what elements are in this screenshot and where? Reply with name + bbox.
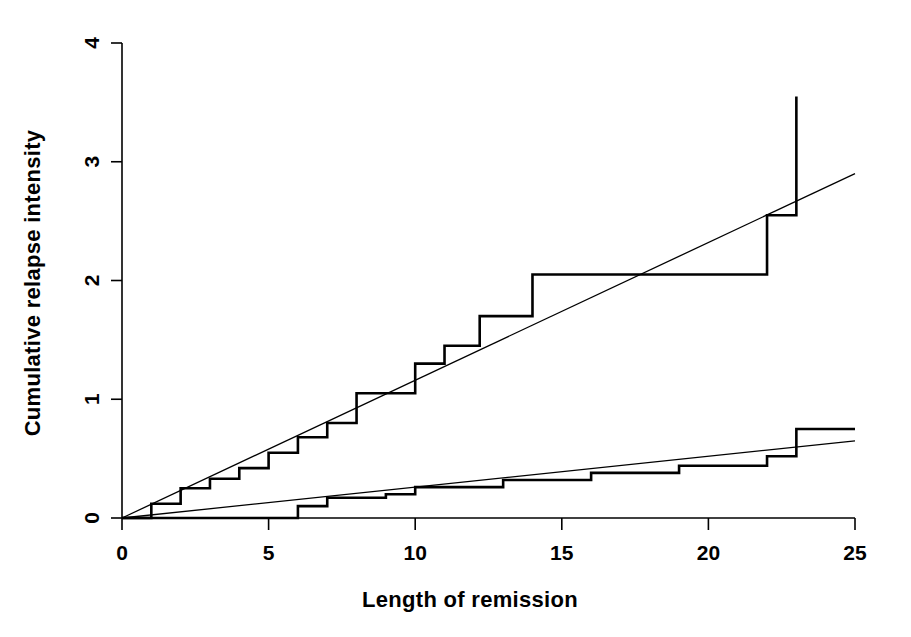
y-tick-label: 1 — [80, 393, 103, 405]
cumulative-relapse-intensity-plot: 01234 0510152025 Length of remission Cum… — [0, 0, 911, 637]
x-tick-label: 5 — [263, 541, 275, 564]
y-tick-label: 3 — [80, 156, 103, 168]
chart-figure: 01234 0510152025 Length of remission Cum… — [0, 0, 911, 637]
upper-cumulative-step — [122, 96, 796, 518]
x-axis-ticks: 0510152025 — [116, 518, 867, 564]
x-tick-label: 10 — [404, 541, 427, 564]
x-tick-label: 15 — [550, 541, 574, 564]
y-tick-label: 2 — [80, 275, 103, 287]
y-tick-label: 0 — [80, 512, 103, 524]
data-series-layer — [122, 96, 855, 518]
x-axis-title: Length of remission — [362, 587, 578, 612]
y-tick-label: 4 — [80, 37, 103, 49]
y-axis-ticks: 01234 — [80, 37, 122, 524]
x-tick-label: 25 — [843, 541, 867, 564]
x-tick-label: 0 — [116, 541, 128, 564]
x-tick-label: 20 — [697, 541, 720, 564]
y-axis-title: Cumulative relapse intensity — [20, 129, 45, 436]
lower-cumulative-step — [122, 429, 855, 518]
